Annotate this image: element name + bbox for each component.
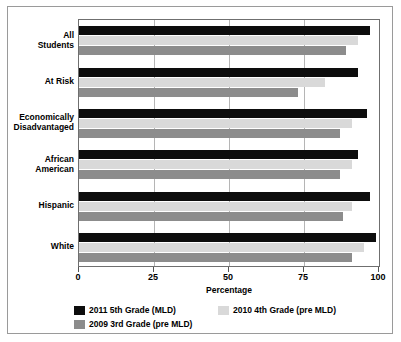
legend-item-0: 2011 5th Grade (MLD) — [74, 303, 176, 317]
x-tick-label: 75 — [298, 272, 308, 282]
bar-group — [79, 150, 379, 179]
legend-item-2: 2009 3rd Grade (pre MLD) — [74, 317, 192, 331]
x-tick-label: 50 — [223, 272, 233, 282]
legend-item-1: 2010 4th Grade (pre MLD) — [218, 303, 336, 317]
category-label: All Students — [8, 30, 74, 50]
legend-label-1: 2010 4th Grade (pre MLD) — [233, 305, 336, 315]
bar-group — [79, 26, 379, 55]
bar — [79, 253, 352, 262]
bar-group — [79, 109, 379, 138]
bar — [79, 78, 325, 87]
legend-swatch-icon-0 — [74, 306, 85, 315]
category-label: At Risk — [8, 76, 74, 86]
chart-figure: All StudentsAt RiskEconomically Disadvan… — [0, 0, 401, 342]
chart-legend: 2011 5th Grade (MLD) 2010 4th Grade (pre… — [74, 303, 374, 331]
category-label: White — [8, 241, 74, 251]
bar — [79, 170, 340, 179]
y-axis-category-labels: All StudentsAt RiskEconomically Disadvan… — [8, 19, 74, 267]
bar — [79, 68, 358, 77]
bar — [79, 212, 343, 221]
bar — [79, 243, 364, 252]
legend-swatch-icon-2 — [74, 320, 85, 329]
x-axis-tick-labels: 0255075100 — [78, 272, 380, 284]
bar — [79, 129, 340, 138]
category-label: Hispanic — [8, 200, 74, 210]
bar-group — [79, 192, 379, 221]
legend-swatch-icon-1 — [218, 306, 229, 315]
bar — [79, 46, 346, 55]
legend-row-2: 2009 3rd Grade (pre MLD) — [74, 317, 374, 331]
category-label: Economically Disadvantaged — [8, 112, 74, 132]
bar — [79, 202, 352, 211]
bar — [79, 119, 352, 128]
bar — [79, 109, 367, 118]
plot-area — [78, 19, 380, 267]
legend-label-2: 2009 3rd Grade (pre MLD) — [89, 319, 192, 329]
bar — [79, 26, 370, 35]
x-axis-title: Percentage — [78, 285, 380, 295]
bar — [79, 192, 370, 201]
bar-group — [79, 68, 379, 97]
legend-row-1: 2011 5th Grade (MLD) 2010 4th Grade (pre… — [74, 303, 374, 317]
x-tick-label: 25 — [148, 272, 158, 282]
bar — [79, 88, 298, 97]
legend-label-0: 2011 5th Grade (MLD) — [89, 305, 176, 315]
bar — [79, 150, 358, 159]
category-label: African American — [8, 154, 74, 174]
bar — [79, 233, 376, 242]
bar-group — [79, 233, 379, 262]
x-tick-label: 100 — [370, 272, 385, 282]
bar — [79, 160, 352, 169]
gridline-100 — [379, 20, 380, 266]
bar — [79, 36, 358, 45]
x-tick-label: 0 — [75, 272, 80, 282]
bars-layer — [79, 20, 379, 266]
